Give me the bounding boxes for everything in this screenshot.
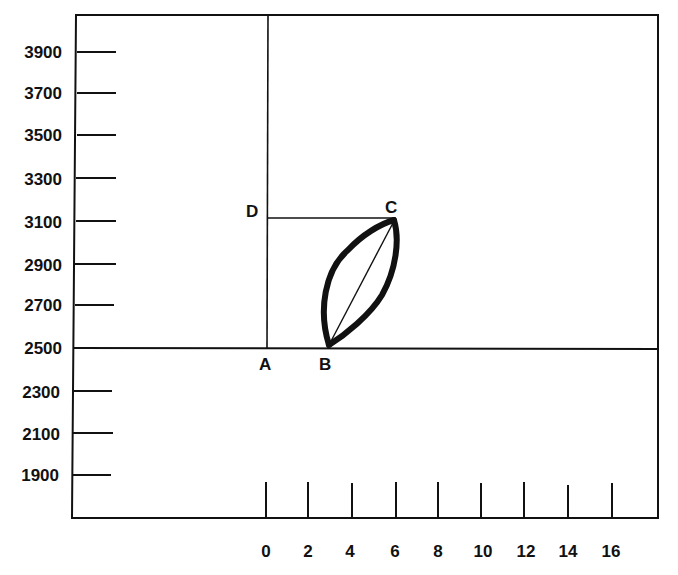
x-tick-label: 0 [251,543,281,560]
point-label-A: A [259,356,271,373]
point-label-C: C [385,199,397,216]
x-tick-label: 16 [596,543,626,560]
x-axis-ticks [266,482,612,518]
y-tick-label: 3500 [0,127,62,144]
x-tick-label: 6 [380,543,410,560]
x-tick-label: 8 [423,543,453,560]
y-tick-label: 3100 [0,214,62,231]
diagram-canvas [0,0,678,575]
x-tick-label: 2 [293,543,323,560]
x-tick-label: 14 [553,543,583,560]
y-tick-label: 2300 [0,384,60,401]
point-label-D: D [246,203,258,220]
y-tick-label: 2500 [0,340,62,357]
y-axis-ticks [73,52,116,475]
y-tick-label: 3300 [0,171,62,188]
y-tick-label: 2100 [0,426,60,443]
frame [72,15,658,518]
x-tick-label: 10 [468,543,498,560]
x-tick-label: 4 [335,543,365,560]
y-tick-label: 3900 [0,44,62,61]
y-tick-label: 3700 [0,85,62,102]
y-tick-label: 2700 [0,297,62,314]
vertical-line-A [267,15,268,348]
arc-upper-left [324,220,394,345]
y-tick-label: 2900 [0,257,62,274]
baseline-2500 [74,348,658,349]
x-tick-label: 12 [511,543,541,560]
point-label-B: B [319,356,331,373]
y-tick-label: 1900 [0,467,59,484]
